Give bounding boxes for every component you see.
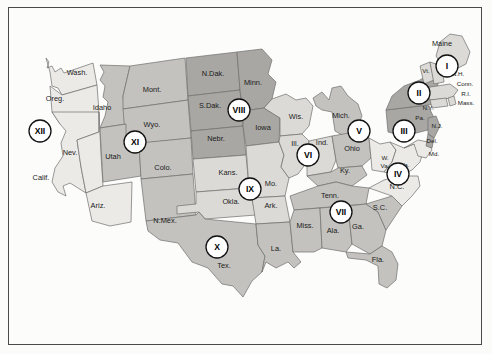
state-label: Mass. [458, 99, 475, 106]
state-fla [346, 246, 398, 288]
state-label: Ky. [340, 166, 350, 175]
circuit-badge-label: III [400, 126, 407, 136]
circuit-badge-label: VII [336, 207, 347, 217]
state-label: Kans. [219, 168, 238, 177]
circuit-badge-ix[interactable]: IX [239, 178, 261, 200]
state-label: Calif. [33, 173, 50, 182]
circuit-badge-x[interactable]: X [206, 236, 228, 258]
state-label: Conn. [457, 80, 474, 87]
state-label: La. [271, 244, 281, 253]
state-label: N.Y. [422, 104, 434, 111]
state-label: Oreg. [46, 94, 64, 103]
state-label: Nebr. [207, 134, 225, 143]
state-label: Wis. [289, 112, 303, 121]
state-label: Okla. [222, 197, 239, 206]
state-label: Idaho [93, 103, 112, 112]
state-label: Ga. [352, 222, 364, 231]
state-label: N.Dak. [202, 69, 225, 78]
state-label: Utah [105, 152, 121, 161]
state-label: S.Dak. [199, 101, 221, 110]
state-label: N.Mex. [153, 216, 176, 225]
state-label: Maine [432, 39, 452, 48]
circuit-badge-label: X [214, 242, 220, 252]
circuit-badge-iv[interactable]: IV [387, 163, 409, 185]
state-label: Tenn. [321, 191, 339, 200]
circuit-badge-v[interactable]: V [348, 120, 370, 142]
us-judicial-circuit-map: Wash.Oreg.Calif.Nev.IdahoMont.Wyo.UtahCo… [0, 0, 492, 354]
state-miss [290, 208, 322, 252]
state-label: Ill. [291, 139, 298, 148]
state-label: Fla. [372, 255, 384, 264]
state-label: Wash. [67, 68, 88, 77]
circuit-badge-label: VIII [233, 105, 246, 115]
state-colo [139, 138, 193, 179]
circuit-badge-label: XI [131, 137, 139, 147]
state-label: Ohio [344, 144, 360, 153]
state-label: Colo. [154, 163, 171, 172]
state-label: Pa. [415, 114, 425, 121]
state-label: Mo. [265, 179, 277, 188]
state-label: Miss. [296, 221, 313, 230]
state-label: Ark. [264, 201, 277, 210]
circuit-badge-label: XII [35, 126, 46, 136]
state-label: Del. [426, 137, 437, 144]
state-label: W. [381, 154, 388, 161]
circuit-badge-iii[interactable]: III [393, 120, 415, 142]
state-label: Minn. [244, 78, 262, 87]
state-label: Mich. [332, 111, 350, 120]
circuit-badge-ii[interactable]: II [408, 82, 430, 104]
circuit-badge-label: I [446, 61, 448, 71]
state-label: Vt. [422, 67, 430, 74]
state-label: Md. [429, 150, 440, 157]
circuit-badge-vii[interactable]: VII [330, 201, 352, 223]
circuit-badge-viii[interactable]: VIII [228, 99, 250, 121]
state-label: N.J. [431, 122, 442, 129]
circuit-badge-xii[interactable]: XII [29, 120, 51, 142]
state-ri [448, 96, 456, 106]
state-label: Ala. [327, 226, 340, 235]
state-label: Tex. [217, 261, 231, 270]
state-label: Nev. [63, 148, 78, 157]
circuit-badge-label: VI [304, 150, 312, 160]
state-label: Ind. [316, 138, 328, 147]
circuit-badge-label: V [356, 126, 362, 136]
circuit-badge-i[interactable]: I [436, 55, 458, 77]
circuit-badge-label: IV [394, 169, 402, 179]
map-canvas: Wash.Oreg.Calif.Nev.IdahoMont.Wyo.UtahCo… [0, 0, 492, 354]
state-label: R.I. [461, 90, 471, 97]
circuit-badge-vi[interactable]: VI [297, 144, 319, 166]
state-label: Wyo. [144, 120, 161, 129]
state-label: Ariz. [91, 201, 106, 210]
circuit-badge-xi[interactable]: XI [124, 131, 146, 153]
state-label: Mont. [143, 85, 161, 94]
circuit-badge-label: II [417, 88, 422, 98]
state-label: S.C. [373, 203, 387, 212]
circuit-badge-label: IX [246, 184, 254, 194]
state-nmex [141, 174, 196, 221]
state-label: Iowa [255, 123, 272, 132]
